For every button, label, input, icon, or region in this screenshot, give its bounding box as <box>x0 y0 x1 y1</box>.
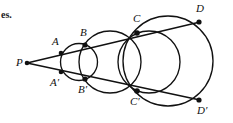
point-label-D: D <box>196 3 204 14</box>
point-label-C: C <box>133 13 140 24</box>
point-dot-C <box>134 30 140 36</box>
point-label-C-prime: C′ <box>130 96 140 107</box>
secant-rays-group <box>27 22 200 100</box>
point-label-B-prime: B′ <box>78 84 87 95</box>
point-dot-P <box>25 61 30 66</box>
point-dot-A-prime <box>59 70 64 75</box>
point-dot-B-prime <box>82 76 87 81</box>
point-dot-A <box>59 51 64 56</box>
point-label-A-prime: A′ <box>50 77 59 88</box>
point-dot-D-prime <box>196 97 201 102</box>
point-dot-B <box>82 42 87 47</box>
point-label-D-prime: D′ <box>197 105 207 116</box>
points-group <box>25 19 202 102</box>
point-label-P: P <box>16 57 23 68</box>
point-label-A: A <box>52 36 59 47</box>
point-label-B: B <box>80 27 87 38</box>
point-dot-D <box>196 19 201 24</box>
circle-mid-BCB-prime-C-prime <box>79 31 141 93</box>
geometry-figure: es. P A A′ B B′ C C′ D D′ <box>0 0 233 123</box>
point-dot-C-prime <box>134 88 140 94</box>
